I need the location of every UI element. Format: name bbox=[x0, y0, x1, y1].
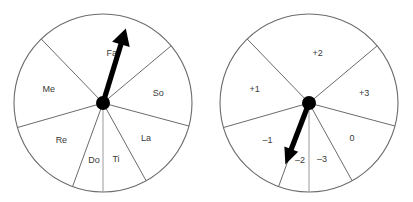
left-wheel[interactable]: FaMeReDoTiLaSo bbox=[0, 0, 206, 202]
right-wheel[interactable]: +2+1–1–2–30+3 bbox=[206, 0, 413, 202]
wheel-hub[interactable] bbox=[96, 96, 110, 110]
sector-label: +1 bbox=[250, 84, 260, 94]
sector-label: +2 bbox=[313, 48, 323, 58]
sector-label: +3 bbox=[359, 88, 369, 98]
sector-label: –3 bbox=[317, 154, 327, 164]
sector-label: Me bbox=[42, 84, 55, 94]
sector-label: 0 bbox=[349, 133, 354, 143]
sector-label: Re bbox=[56, 135, 68, 145]
sector-label: La bbox=[141, 133, 151, 143]
spinner-wheels-figure: FaMeReDoTiLaSo +2+1–1–2–30+3 bbox=[0, 0, 413, 202]
sector-label: Ti bbox=[112, 154, 119, 164]
sector-label: So bbox=[153, 88, 164, 98]
sector-label: Do bbox=[88, 155, 100, 165]
sector-label: –2 bbox=[295, 155, 305, 165]
sector-label: –1 bbox=[262, 135, 272, 145]
wheel-hub[interactable] bbox=[302, 96, 316, 110]
